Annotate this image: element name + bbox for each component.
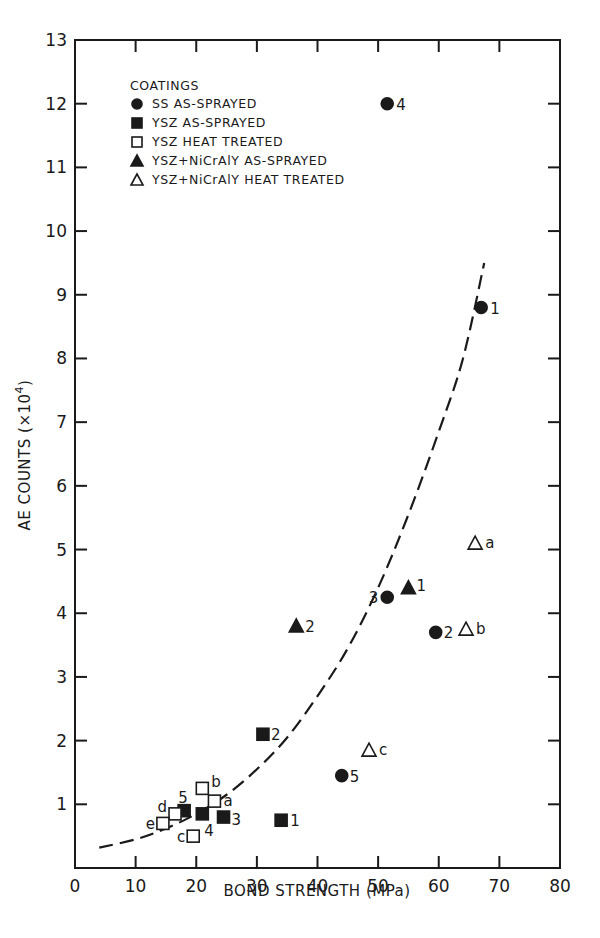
legend-item-label: YSZ AS-SPRAYED bbox=[151, 115, 266, 130]
open-square-marker bbox=[196, 782, 208, 794]
filled-triangle-marker bbox=[131, 155, 143, 166]
legend-item: SS AS-SPRAYED bbox=[132, 96, 257, 111]
data-point: 3 bbox=[218, 811, 242, 829]
y-axis-title-exponent: 4 bbox=[13, 386, 26, 394]
data-point: 5 bbox=[336, 768, 360, 786]
data-point: b bbox=[196, 773, 221, 794]
y-tick-label: 9 bbox=[56, 285, 67, 305]
data-point: e bbox=[146, 815, 169, 833]
point-label: d bbox=[158, 798, 168, 816]
y-tick-label: 2 bbox=[56, 731, 67, 751]
legend-item: YSZ+NiCrAlY HEAT TREATED bbox=[131, 172, 345, 187]
y-axis-ticks: 12345678910111213 bbox=[45, 30, 560, 814]
point-label: 2 bbox=[444, 624, 454, 642]
legend-item: YSZ+NiCrAlY AS-SPRAYED bbox=[131, 153, 328, 168]
y-tick-label: 5 bbox=[56, 540, 67, 560]
filled-circle-marker bbox=[336, 770, 348, 782]
legend-item-label: SS AS-SPRAYED bbox=[152, 96, 257, 111]
filled-triangle-marker bbox=[401, 581, 415, 594]
legend-item-label: YSZ HEAT TREATED bbox=[151, 134, 283, 149]
open-square-marker bbox=[169, 808, 181, 820]
point-label: 2 bbox=[305, 618, 315, 636]
open-square-marker bbox=[187, 830, 199, 842]
legend-title: COATINGS bbox=[130, 78, 199, 93]
y-tick-label: 3 bbox=[56, 667, 67, 687]
filled-square-marker bbox=[257, 728, 269, 740]
point-label: a bbox=[485, 534, 494, 552]
filled-circle-marker bbox=[132, 99, 142, 109]
filled-square-marker bbox=[275, 814, 287, 826]
data-point: 4 bbox=[381, 96, 406, 114]
open-square-marker bbox=[157, 817, 169, 829]
open-triangle-marker bbox=[362, 743, 376, 756]
y-tick-label: 1 bbox=[56, 794, 67, 814]
series-ysz-nicraly-heat-treated: abc bbox=[362, 534, 494, 759]
x-tick-label: 0 bbox=[70, 876, 81, 896]
data-points: 1234512345abcde12abc bbox=[146, 96, 500, 846]
point-label: 1 bbox=[490, 300, 500, 318]
data-point: c bbox=[177, 828, 199, 846]
legend-item: YSZ HEAT TREATED bbox=[132, 134, 283, 149]
data-point: 2 bbox=[430, 624, 454, 642]
legend-item-label: YSZ+NiCrAlY AS-SPRAYED bbox=[151, 153, 328, 168]
y-tick-label: 6 bbox=[56, 476, 67, 496]
filled-circle-marker bbox=[381, 591, 393, 603]
series-ysz-nicraly-as-sprayed: 12 bbox=[289, 577, 426, 636]
data-point: 1 bbox=[401, 577, 426, 595]
series-ss-as-sprayed: 12345 bbox=[336, 96, 500, 786]
data-point: 2 bbox=[257, 726, 281, 744]
point-label: c bbox=[177, 828, 185, 846]
open-triangle-marker bbox=[131, 174, 143, 185]
legend: COATINGS SS AS-SPRAYEDYSZ AS-SPRAYEDYSZ … bbox=[130, 78, 345, 187]
x-axis-ticks: 01020304050607080 bbox=[70, 40, 571, 896]
y-tick-label: 10 bbox=[45, 221, 67, 241]
filled-triangle-marker bbox=[289, 619, 303, 632]
y-tick-label: 12 bbox=[45, 94, 67, 114]
open-triangle-marker bbox=[459, 622, 473, 635]
x-axis-title: BOND STRENGTH (MPa) bbox=[223, 882, 410, 900]
data-point: a bbox=[208, 792, 232, 810]
filled-square-marker bbox=[132, 118, 142, 128]
data-point: b bbox=[459, 620, 486, 638]
filled-square-marker bbox=[196, 808, 208, 820]
point-label: 5 bbox=[350, 768, 360, 786]
open-triangle-marker bbox=[468, 536, 482, 549]
x-tick-label: 70 bbox=[489, 876, 511, 896]
data-point: 1 bbox=[275, 812, 300, 830]
y-tick-label: 7 bbox=[56, 412, 67, 432]
y-tick-label: 13 bbox=[45, 30, 67, 50]
point-label: e bbox=[146, 815, 155, 833]
x-tick-label: 80 bbox=[549, 876, 571, 896]
data-point: 3 bbox=[369, 589, 394, 607]
filled-circle-marker bbox=[381, 98, 393, 110]
legend-item: YSZ AS-SPRAYED bbox=[132, 115, 266, 130]
point-label: b bbox=[476, 620, 486, 638]
point-label: 1 bbox=[290, 812, 300, 830]
open-square-marker bbox=[132, 137, 142, 147]
point-label: 3 bbox=[369, 589, 379, 607]
legend-item-label: YSZ+NiCrAlY HEAT TREATED bbox=[151, 172, 345, 187]
filled-square-marker bbox=[218, 811, 230, 823]
point-label: 4 bbox=[204, 822, 214, 840]
x-tick-label: 60 bbox=[428, 876, 450, 896]
open-square-marker bbox=[208, 795, 220, 807]
point-label: 4 bbox=[396, 96, 406, 114]
data-point: 1 bbox=[475, 300, 500, 318]
y-tick-label: 11 bbox=[45, 157, 67, 177]
y-tick-label: 8 bbox=[56, 348, 67, 368]
point-label: 2 bbox=[271, 726, 281, 744]
point-label: 3 bbox=[232, 811, 242, 829]
x-tick-label: 20 bbox=[185, 876, 207, 896]
point-label: c bbox=[379, 741, 387, 759]
x-tick-label: 10 bbox=[125, 876, 147, 896]
trend-curve bbox=[99, 263, 484, 848]
point-label: 5 bbox=[178, 789, 188, 807]
data-point: c bbox=[362, 741, 387, 759]
point-label: b bbox=[211, 773, 221, 791]
data-point: a bbox=[468, 534, 494, 552]
y-axis-title: AE COUNTS (×104) bbox=[13, 380, 34, 531]
point-label: 1 bbox=[416, 577, 426, 595]
point-label: a bbox=[223, 792, 232, 810]
filled-circle-marker bbox=[475, 302, 487, 314]
scatter-chart: 01020304050607080 12345678910111213 BOND… bbox=[0, 0, 600, 938]
